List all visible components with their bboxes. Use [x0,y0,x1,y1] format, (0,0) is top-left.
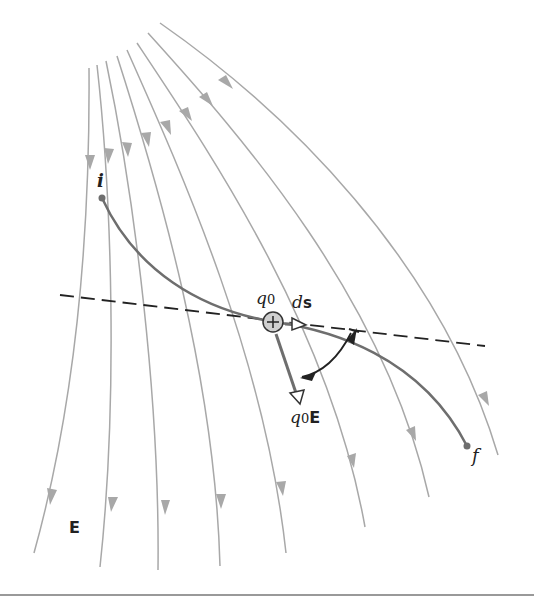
label-q0E: q0E [290,409,320,426]
field-line [106,61,158,570]
label-q0: q0 [256,290,275,307]
field-diagram: i f q0 ds q0E E [0,0,534,605]
arrow-down-icon [47,488,57,505]
label-q0E-E: E [309,408,320,427]
path-i-to-f [102,198,467,446]
field-line [117,56,220,566]
label-f: f [472,447,479,465]
arrow-down-icon [406,426,416,441]
arrow-down-icon [85,155,95,170]
point-f [464,443,471,450]
label-q0E-sub: 0 [301,411,309,426]
label-q0E-q: q [290,407,301,427]
label-i: i [97,172,104,190]
label-ds-s: s [303,294,312,312]
label-field-E: E [69,520,80,536]
field-line [137,43,365,527]
field-line [148,33,429,497]
arrow-down-icon [199,92,213,106]
arrow-down-icon [108,497,118,512]
arrow-down-icon [161,500,170,515]
point-i [99,195,106,202]
field-line [97,65,111,567]
label-ds: ds [292,294,312,311]
field-line [160,23,498,455]
force-vector-line [276,334,296,393]
field-line [34,68,89,553]
label-q0-sub: 0 [267,292,275,307]
label-q0-base: q [256,288,267,308]
label-ds-d: d [292,292,303,312]
force-arrow-icon [290,390,304,404]
